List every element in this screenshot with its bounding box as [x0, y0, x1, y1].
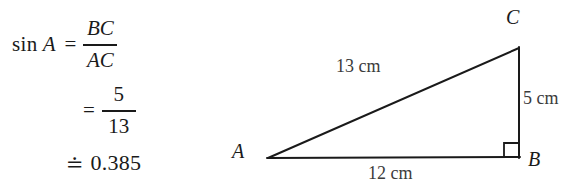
angle-variable-a: A — [43, 32, 56, 57]
result-value-0385: 0.385 — [91, 150, 142, 176]
fraction-numerator-bc: BC — [84, 18, 117, 39]
fraction-denominator-13: 13 — [105, 116, 132, 137]
math-worked-example: { "solution": { "line1": { "function_lab… — [0, 0, 588, 193]
right-angle-marker-icon — [504, 143, 519, 157]
fraction-bar-1 — [83, 44, 117, 46]
equation-line-sin-a: sin A = BC AC — [12, 18, 117, 71]
fraction-5-over-13: 5 13 — [102, 84, 136, 137]
sine-function-label: sin — [12, 32, 38, 57]
approximately-equals-sign: ≐ — [66, 152, 84, 177]
right-triangle-figure: A B C 13 cm 5 cm 12 cm — [190, 0, 588, 193]
fraction-bc-over-ac: BC AC — [83, 18, 117, 71]
vertex-label-a: A — [232, 140, 244, 163]
triangle-side-ac-line — [268, 48, 519, 158]
triangle-side-ab-line — [267, 157, 520, 158]
fraction-denominator-ac: AC — [84, 50, 117, 71]
vertex-label-c: C — [506, 6, 519, 29]
fraction-bar-2 — [102, 110, 136, 112]
equation-line-decimal-result: ≐ 0.385 — [66, 150, 141, 176]
equation-line-five-thirteenths: = 5 13 — [74, 84, 136, 137]
equals-sign-1: = — [65, 32, 77, 57]
equals-sign-2: = — [83, 98, 95, 123]
fraction-numerator-5: 5 — [111, 84, 128, 105]
solution-expression-block: sin A = BC AC = 5 13 ≐ 0.385 — [0, 0, 190, 193]
vertex-label-b: B — [528, 148, 540, 171]
side-length-label-ac: 13 cm — [336, 56, 381, 77]
side-length-label-bc: 5 cm — [523, 88, 559, 109]
side-length-label-ab: 12 cm — [368, 163, 413, 184]
